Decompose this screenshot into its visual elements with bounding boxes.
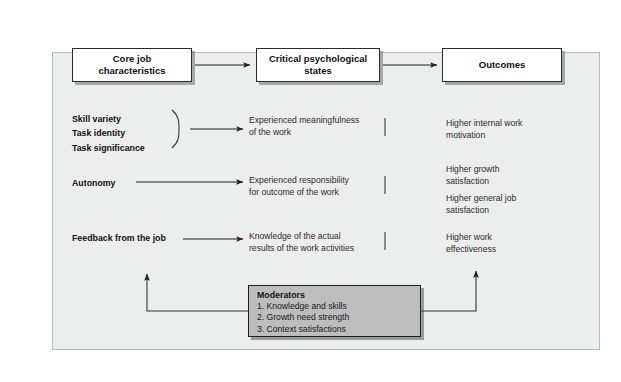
- outcome-1-line1: Higher internal work: [446, 118, 522, 128]
- core-characteristic-task-significance: Task significance: [72, 141, 145, 155]
- state-meaningfulness-line2: of the work: [249, 127, 291, 137]
- psychological-state-meaningfulness: Experienced meaningfulness of the work: [249, 114, 409, 138]
- core-characteristic-skill-variety: Skill variety: [72, 112, 145, 126]
- core-characteristics-trio: Skill variety Task identity Task signifi…: [72, 112, 145, 155]
- outcome-1-line2: motivation: [446, 130, 485, 140]
- outcome-2-line2: satisfaction: [446, 176, 489, 186]
- moderator-item-knowledge-and-skills: 1. Knowledge and skills: [257, 301, 420, 312]
- psychological-state-responsibility: Experienced responsibility for outcome o…: [249, 174, 409, 198]
- header-outcomes-label: Outcomes: [479, 59, 525, 71]
- outcome-2-line1: Higher growth: [446, 164, 500, 174]
- core-characteristic-autonomy: Autonomy: [72, 176, 116, 190]
- psychological-state-knowledge: Knowledge of the actual results of the w…: [249, 230, 409, 254]
- core-characteristic-task-identity: Task identity: [72, 126, 145, 140]
- header-critical-line1: Critical psychological: [269, 53, 367, 64]
- header-critical-line2: states: [304, 65, 331, 76]
- header-core-line1: Core job: [113, 53, 152, 64]
- outcome-3-line2: satisfaction: [446, 205, 489, 215]
- state-knowledge-line1: Knowledge of the actual: [249, 231, 341, 241]
- moderators-box: Moderators 1. Knowledge and skills 2. Gr…: [248, 285, 421, 337]
- outcome-4-line2: effectiveness: [446, 244, 496, 254]
- outcome-3-line1: Higher general job: [446, 193, 516, 203]
- outcome-general-job-satisfaction: Higher general job satisfaction: [446, 192, 576, 216]
- header-box-outcomes: Outcomes: [442, 48, 562, 82]
- outcome-4-line1: Higher work: [446, 232, 492, 242]
- outcome-growth-satisfaction: Higher growth satisfaction: [446, 163, 576, 187]
- header-box-core-job-characteristics: Core job characteristics: [72, 48, 192, 82]
- moderator-item-growth-need-strength: 2. Growth need strength: [257, 312, 420, 323]
- core-characteristic-feedback: Feedback from the job: [72, 231, 166, 245]
- state-meaningfulness-line1: Experienced meaningfulness: [249, 115, 359, 125]
- job-characteristics-diagram: Core job characteristics Critical psycho…: [0, 0, 621, 382]
- outcome-work-effectiveness: Higher work effectiveness: [446, 231, 576, 255]
- moderators-title: Moderators: [257, 290, 420, 301]
- moderator-item-context-satisfactions: 3. Context satisfactions: [257, 324, 420, 335]
- state-knowledge-line2: results of the work activities: [249, 243, 354, 253]
- outcome-internal-work-motivation: Higher internal work motivation: [446, 117, 576, 141]
- header-box-critical-psychological-states: Critical psychological states: [256, 48, 380, 82]
- state-responsibility-line1: Experienced responsibility: [249, 175, 349, 185]
- state-responsibility-line2: for outcome of the work: [249, 187, 339, 197]
- header-core-line2: characteristics: [98, 65, 165, 76]
